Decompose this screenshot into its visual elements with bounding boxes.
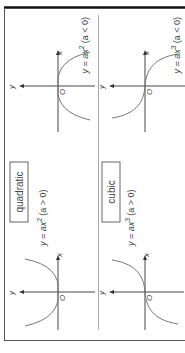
origin-label: O (58, 89, 67, 95)
equation-label: y = ax2(a > 0) (36, 190, 48, 247)
origin-label: O (58, 295, 67, 301)
cubic-label: cubic (106, 180, 117, 203)
graph-cubic-a-neg: y x O y = ax3(a < 0) (97, 17, 185, 132)
cubic-label-box: cubic (102, 162, 120, 222)
origin-label: O (145, 89, 154, 95)
y-axis-arrow-icon (19, 84, 24, 88)
y-axis-arrow-icon (19, 290, 24, 294)
x-axis-label: x (55, 252, 64, 258)
x-axis-label: x (142, 252, 151, 258)
quadratic-label: quadratic (14, 171, 25, 212)
quadratic-label-box: quadratic (10, 162, 28, 222)
equation-label: y = ax2(a < 0) (78, 17, 90, 74)
curve (25, 259, 58, 326)
y-axis-label: y (7, 290, 16, 296)
graph-quadratic-a-neg: y x O y = ax2(a < 0) (7, 17, 95, 132)
y-axis-label: y (7, 84, 16, 90)
y-axis-arrow-icon (109, 84, 114, 88)
x-axis-label: x (142, 50, 151, 56)
x-axis-label: x (55, 50, 64, 56)
equation-label: y = ax3(a > 0) (124, 190, 136, 247)
equation-label: y = ax3(a < 0) (170, 17, 182, 74)
function-graphs-diagram: quadratic y x O y = ax2(a < 0) y x O y =… (0, 0, 185, 353)
y-axis-arrow-icon (109, 290, 114, 294)
